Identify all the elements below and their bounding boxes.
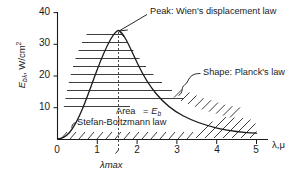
annotation-area-prefix: Area bbox=[116, 106, 135, 116]
annotation-area: Area =Eb bbox=[116, 100, 161, 118]
annotation-peak-wiens-law: Peak: Wien's displacement law bbox=[150, 6, 276, 16]
y-tick-label-40: 40 bbox=[30, 6, 50, 17]
hatch-horizontal-peak-region bbox=[64, 35, 184, 107]
x-tick-label-1: 1 bbox=[90, 144, 104, 155]
y-tick-label-30: 30 bbox=[30, 37, 50, 48]
x-tick-label-5: 5 bbox=[249, 144, 263, 155]
y-axis-label: Ebλ, W/cm2 bbox=[11, 29, 25, 101]
annotation-area-symbol-subscript: b bbox=[157, 110, 161, 117]
y-axis-label-units: , W/cm bbox=[16, 45, 27, 75]
lambda-max-leader bbox=[116, 150, 119, 154]
y-tick-label-20: 20 bbox=[30, 69, 50, 80]
y-axis-ticks bbox=[54, 13, 58, 108]
y-axis-label-subscript: bλ bbox=[21, 75, 28, 82]
hatch-baseline-ticks bbox=[61, 132, 193, 139]
y-tick-label-10: 10 bbox=[30, 101, 50, 112]
y-axis-label-symbol: E bbox=[16, 82, 27, 88]
y-axis-label-superscript: 2 bbox=[15, 42, 22, 46]
annotation-area-equals: = bbox=[140, 106, 151, 116]
plot-canvas bbox=[0, 0, 307, 185]
x-tick-label-4: 4 bbox=[210, 144, 224, 155]
x-tick-label-3: 3 bbox=[170, 144, 184, 155]
x-tick-label-2: 2 bbox=[130, 144, 144, 155]
lambda-max-label: λmax bbox=[100, 159, 123, 170]
x-axis-label: λ,μ bbox=[272, 139, 285, 150]
peak-leader-line bbox=[119, 15, 147, 38]
annotation-shape-plancks-law: Shape: Planck's law bbox=[203, 67, 285, 77]
x-tick-label-0: 0 bbox=[50, 144, 64, 155]
annotation-stefan-boltzmann-law: Stefan-Boltzmann law bbox=[77, 117, 166, 127]
figure-container: Ebλ, W/cm2 10 20 30 40 0 1 2 3 4 5 λ,μ λ… bbox=[0, 0, 307, 185]
hatch-diagonal-tail-region bbox=[174, 90, 257, 139]
shape-leader-squiggle bbox=[179, 74, 201, 96]
